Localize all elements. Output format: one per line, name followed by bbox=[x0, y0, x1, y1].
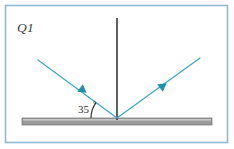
angle-value-label: 35 bbox=[78, 103, 90, 115]
question-number-label: Q1 bbox=[17, 20, 34, 35]
degree-symbol-label: ° bbox=[93, 100, 96, 109]
diagram-canvas: 35 ° Q1 bbox=[0, 0, 234, 149]
reflection-diagram-figure: 35 ° Q1 bbox=[0, 0, 234, 149]
